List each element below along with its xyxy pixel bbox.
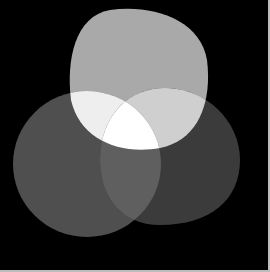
diagram-frame [0,0,270,272]
venn-diagram [0,0,270,272]
